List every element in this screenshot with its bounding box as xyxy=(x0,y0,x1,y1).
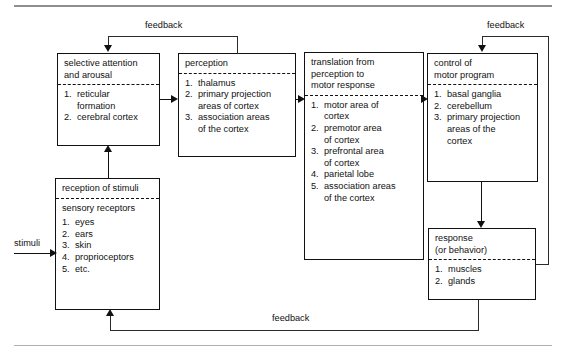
bottom-horizontal-rule xyxy=(14,345,552,346)
header-line: motor program xyxy=(434,70,531,82)
header-line: (or behavior) xyxy=(435,245,529,257)
stimuli-arrowhead xyxy=(50,249,57,257)
header-line: response xyxy=(435,233,529,245)
feedback-right-riser xyxy=(548,36,549,265)
box-perception-body: 1. thalamus 2. primary projection areas … xyxy=(179,74,295,140)
box-control-header: control of motor program xyxy=(428,54,537,84)
header-line: and arousal xyxy=(64,70,153,82)
list-number: 2. xyxy=(311,123,319,135)
box-response-body: 1. muscles 2. glands xyxy=(429,260,535,291)
list-number: 1. xyxy=(435,264,443,276)
list-item: 4. parietal lobe xyxy=(311,169,417,181)
list-item: 2. cerebellum xyxy=(434,101,531,113)
box-reception-of-stimuli: reception of stimuli sensory receptors 1… xyxy=(55,178,160,310)
feedback-left-riser xyxy=(237,36,238,54)
list-text: of cortex xyxy=(324,135,417,147)
header-line: reception of stimuli xyxy=(62,183,153,195)
list-item: 1. eyes xyxy=(62,217,153,229)
box-reception-header: reception of stimuli xyxy=(56,179,159,198)
list-text: thalamus xyxy=(198,78,235,88)
list-number: 1. xyxy=(311,100,319,112)
list-text: skin xyxy=(75,240,91,250)
list-text: primary projection xyxy=(198,89,271,99)
list-text: primary projection xyxy=(447,112,520,122)
box-reception-subheader: sensory receptors xyxy=(62,203,153,218)
feedback-bottom-span xyxy=(110,330,479,331)
numbered-list: 1. thalamus 2. primary projection areas … xyxy=(185,78,289,136)
connector-arrowhead-right xyxy=(421,95,428,103)
list-text: areas of cortex xyxy=(198,101,289,113)
list-text: cortex xyxy=(447,136,531,148)
box-perception: perception 1. thalamus 2. primary projec… xyxy=(178,53,296,157)
header-line: translation from xyxy=(311,57,417,69)
list-item: 1. motor area of cortex xyxy=(311,100,417,123)
list-number: 1. xyxy=(62,217,70,229)
feedback-right-span xyxy=(482,36,549,37)
connector-control-to-response xyxy=(481,182,482,224)
list-text: formation xyxy=(77,101,153,113)
list-text: cerebral cortex xyxy=(77,112,138,122)
list-number: 3. xyxy=(434,112,442,124)
box-translation-header: translation from perception to motor res… xyxy=(305,53,423,95)
list-number: 3. xyxy=(185,112,193,124)
diagram-canvas: selective attention and arousal 1. retic… xyxy=(0,0,563,353)
list-item: 1. muscles xyxy=(435,264,529,276)
list-number: 2. xyxy=(62,229,70,241)
label-feedback-top-left: feedback xyxy=(145,20,182,31)
list-text: association areas xyxy=(198,112,270,122)
list-item: 3. primary projection areas of the corte… xyxy=(434,112,531,147)
numbered-list: 1. reticular formation 2. cerebral corte… xyxy=(64,89,153,124)
list-item: 2. primary projection areas of cortex xyxy=(185,89,289,112)
box-control-body: 1. basal ganglia 2. cerebellum 3. primar… xyxy=(428,85,537,151)
list-item: 1. basal ganglia xyxy=(434,89,531,101)
label-feedback-top-right: feedback xyxy=(487,20,524,31)
list-text: proprioceptors xyxy=(75,252,134,262)
numbered-list: 1. basal ganglia 2. cerebellum 3. primar… xyxy=(434,89,531,147)
box-control-motor-program: control of motor program 1. basal gangli… xyxy=(427,53,538,182)
feedback-left-span xyxy=(108,36,238,37)
header-line: motor response xyxy=(311,80,417,92)
list-text: prefrontal area xyxy=(324,146,384,156)
list-text: association areas xyxy=(324,181,396,191)
list-number: 2. xyxy=(434,101,442,113)
numbered-list: 1. motor area of cortex 2. premotor area… xyxy=(311,100,417,204)
box-selective-attention-body: 1. reticular formation 2. cerebral corte… xyxy=(58,85,159,128)
connector-arrowhead-right xyxy=(171,95,178,103)
list-item: 2. glands xyxy=(435,276,529,288)
list-item: 4. proprioceptors xyxy=(62,252,153,264)
list-number: 1. xyxy=(434,89,442,101)
list-item: 2. ears xyxy=(62,229,153,241)
list-item: 1. thalamus xyxy=(185,78,289,90)
box-selective-attention-header: selective attention and arousal xyxy=(58,54,159,84)
connector-arrowhead-right xyxy=(298,95,305,103)
box-translation: translation from perception to motor res… xyxy=(304,52,424,260)
list-item: 2. premotor area of cortex xyxy=(311,123,417,146)
list-item: 3. skin xyxy=(62,240,153,252)
box-response-header: response (or behavior) xyxy=(429,229,535,259)
header-line: perception xyxy=(185,58,289,70)
list-text: muscles xyxy=(448,264,482,274)
list-text: parietal lobe xyxy=(324,169,374,179)
box-translation-body: 1. motor area of cortex 2. premotor area… xyxy=(305,96,423,208)
list-number: 3. xyxy=(311,146,319,158)
box-reception-body: sensory receptors 1. eyes 2. ears 3. ski… xyxy=(56,199,159,280)
top-horizontal-rule xyxy=(14,5,552,7)
list-number: 2. xyxy=(64,112,72,124)
list-text: etc. xyxy=(75,264,90,274)
list-item: 5. association areas of the cortex xyxy=(311,181,417,204)
list-number: 2. xyxy=(185,89,193,101)
box-selective-attention: selective attention and arousal 1. retic… xyxy=(57,53,160,146)
list-number: 5. xyxy=(311,181,319,193)
label-stimuli: stimuli xyxy=(14,238,40,249)
list-text: premotor area xyxy=(324,123,382,133)
list-number: 4. xyxy=(311,169,319,181)
header-line: control of xyxy=(434,58,531,70)
header-line: selective attention xyxy=(64,58,153,70)
feedback-right-arrowhead xyxy=(478,45,486,52)
list-text: glands xyxy=(448,276,475,286)
list-text: areas of the xyxy=(447,124,531,136)
list-text: basal ganglia xyxy=(447,89,501,99)
connector-arrowhead-up xyxy=(104,145,112,152)
list-number: 3. xyxy=(62,240,70,252)
box-response: response (or behavior) 1. muscles 2. gla… xyxy=(428,228,536,300)
